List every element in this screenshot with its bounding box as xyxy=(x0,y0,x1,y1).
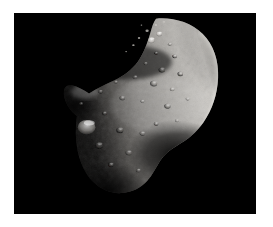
crater xyxy=(133,75,138,79)
crater xyxy=(136,169,141,173)
lit-debris xyxy=(141,24,143,25)
crater xyxy=(158,67,164,72)
lit-debris xyxy=(132,44,134,46)
photo-frame: Grayscale photograph of an irregular cra… xyxy=(0,0,273,227)
crater xyxy=(172,54,177,58)
central-ridge-highlight xyxy=(111,77,208,133)
lit-debris xyxy=(155,24,157,26)
crater xyxy=(79,102,83,105)
crater xyxy=(116,127,123,133)
crater xyxy=(156,32,162,37)
crater xyxy=(168,43,172,46)
lit-debris xyxy=(145,29,148,32)
asteroid-image xyxy=(14,13,256,214)
crater xyxy=(177,72,183,77)
crater xyxy=(108,163,114,168)
space-background xyxy=(14,13,256,214)
crater xyxy=(125,150,131,155)
crater xyxy=(114,80,118,83)
crater xyxy=(95,142,103,149)
crater xyxy=(143,62,147,65)
lit-debris xyxy=(125,51,127,52)
lit-debris xyxy=(163,21,165,23)
crater xyxy=(102,112,107,116)
crater xyxy=(78,120,96,135)
lit-debris xyxy=(138,37,140,39)
crater xyxy=(154,52,158,55)
